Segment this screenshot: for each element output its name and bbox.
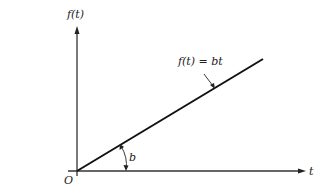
y-axis-arrowhead bbox=[75, 26, 80, 34]
origin-label: O bbox=[64, 174, 73, 187]
x-axis-arrowhead bbox=[298, 169, 306, 174]
function-line-label: f(t) = bt bbox=[177, 55, 223, 68]
y-axis-label: f(t) bbox=[66, 8, 84, 21]
angle-label: b bbox=[129, 151, 136, 164]
function-line bbox=[77, 59, 263, 171]
x-axis-label: t bbox=[309, 165, 314, 178]
angle-arc-arrowhead-bottom bbox=[124, 165, 129, 171]
linear-function-diagram: f(t) t O f(t) = bt b bbox=[0, 0, 320, 191]
label-pointer-arrowhead bbox=[210, 83, 215, 89]
